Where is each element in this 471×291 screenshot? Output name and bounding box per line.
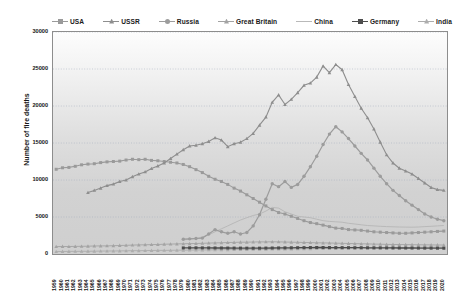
data-point-marker	[55, 168, 58, 171]
data-point-marker	[296, 217, 299, 220]
data-point-marker	[144, 158, 147, 161]
data-point-marker	[417, 231, 420, 234]
data-point-marker	[182, 246, 185, 249]
x-tick-label: 2004	[338, 279, 343, 291]
data-point-marker	[245, 231, 248, 234]
data-point-marker	[264, 198, 267, 201]
legend-item-india[interactable]: India	[418, 17, 452, 25]
data-point-marker	[436, 218, 439, 221]
data-point-marker	[169, 161, 172, 164]
data-point-marker	[194, 168, 197, 171]
y-axis-tick-labels: 050001000015000200002500030000	[4, 0, 48, 291]
x-tick-label: 2020	[440, 279, 445, 291]
x-tick-label: 2005	[345, 279, 350, 291]
data-point-marker	[80, 163, 83, 166]
legend-item-china[interactable]: China	[296, 17, 333, 25]
data-point-marker	[213, 136, 217, 139]
data-point-marker	[417, 247, 420, 250]
data-point-marker	[309, 246, 312, 249]
x-tick-label: 1959	[52, 279, 57, 291]
x-tick-label: 1969	[116, 279, 121, 291]
x-tick-label: 1974	[148, 279, 153, 291]
data-point-marker	[277, 93, 281, 96]
data-point-marker	[334, 125, 337, 128]
data-point-marker	[334, 227, 337, 230]
data-point-marker	[423, 231, 426, 234]
x-tick-label: 1997	[294, 279, 299, 291]
data-point-marker	[417, 208, 420, 211]
legend-swatch-icon	[103, 17, 119, 25]
data-point-marker	[175, 161, 178, 164]
data-point-marker	[252, 197, 255, 200]
data-point-marker	[188, 165, 191, 168]
x-tick-label: 1999	[306, 279, 311, 291]
data-point-marker	[271, 208, 274, 211]
legend-swatch-icon	[296, 17, 312, 25]
data-point-marker	[277, 185, 280, 188]
data-point-marker	[283, 180, 286, 183]
data-point-marker	[182, 238, 185, 241]
legend-swatch-icon	[159, 17, 175, 25]
data-point-marker	[213, 228, 216, 231]
x-tick-label: 2014	[402, 279, 407, 291]
x-tick-label: 1962	[71, 279, 76, 291]
data-point-marker	[321, 143, 324, 146]
legend-swatch-icon	[52, 17, 68, 25]
series-ussr	[86, 63, 445, 194]
data-point-marker	[239, 232, 242, 235]
x-tick-label: 1977	[167, 279, 172, 291]
chart-legend: USAUSSRRussiaGreat BritainChinaGermanyIn…	[52, 14, 452, 28]
data-point-marker	[340, 130, 343, 133]
x-tick-label: 1985	[217, 279, 222, 291]
data-point-marker	[207, 246, 210, 249]
data-point-marker	[233, 247, 236, 250]
data-point-marker	[404, 199, 407, 202]
data-point-marker	[226, 232, 229, 235]
data-point-marker	[290, 246, 293, 249]
data-point-marker	[360, 246, 363, 249]
data-point-marker	[398, 194, 401, 197]
data-point-marker	[366, 246, 369, 249]
x-tick-label: 1990	[249, 279, 254, 291]
data-point-marker	[411, 231, 414, 234]
legend-label: China	[314, 18, 333, 25]
legend-label: Germany	[370, 18, 399, 25]
x-tick-label: 2010	[376, 279, 381, 291]
data-point-marker	[372, 230, 375, 233]
data-point-marker	[67, 166, 70, 169]
data-point-marker	[430, 247, 433, 250]
legend-item-ussr[interactable]: USSR	[103, 17, 140, 25]
data-point-marker	[233, 187, 236, 190]
x-tick-label: 1963	[78, 279, 83, 291]
x-tick-label: 1996	[287, 279, 292, 291]
data-point-marker	[232, 230, 235, 233]
data-point-marker	[118, 160, 121, 163]
data-point-marker	[379, 175, 382, 178]
chart-lines	[53, 32, 447, 254]
data-point-marker	[271, 182, 274, 185]
x-tick-label: 2000	[313, 279, 318, 291]
data-point-marker	[106, 160, 109, 163]
data-point-marker	[239, 247, 242, 250]
x-tick-label: 1960	[59, 279, 64, 291]
legend-label: Russia	[177, 18, 199, 25]
data-point-marker	[334, 246, 337, 249]
legend-item-russia[interactable]: Russia	[159, 17, 199, 25]
data-point-marker	[442, 230, 445, 233]
data-point-marker	[207, 175, 210, 178]
data-point-marker	[239, 190, 242, 193]
series-line	[88, 65, 444, 193]
data-point-marker	[385, 246, 388, 249]
data-point-marker	[360, 152, 363, 155]
data-point-marker	[150, 159, 153, 162]
data-point-marker	[404, 247, 407, 250]
legend-item-usa[interactable]: USA	[52, 17, 84, 25]
data-point-marker	[353, 228, 356, 231]
legend-item-germany[interactable]: Germany	[352, 17, 399, 25]
x-axis-tick-labels: 1959196019611962196319641965196619671968…	[52, 257, 448, 291]
data-point-marker	[258, 201, 261, 204]
legend-item-great-britain[interactable]: Great Britain	[218, 17, 277, 25]
data-point-marker	[290, 186, 293, 189]
data-point-marker	[404, 232, 407, 235]
data-point-marker	[391, 189, 394, 192]
